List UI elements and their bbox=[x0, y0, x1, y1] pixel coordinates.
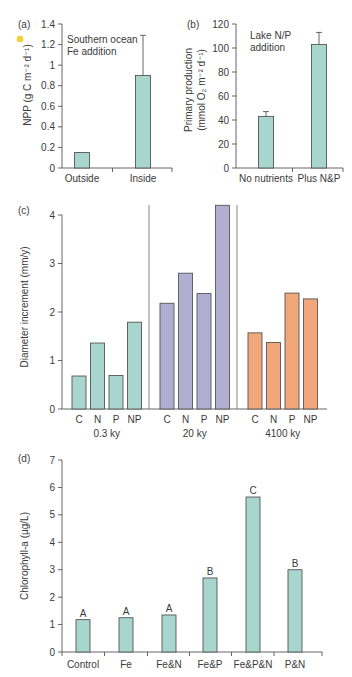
bar bbox=[246, 497, 260, 652]
significance-label: A bbox=[123, 606, 130, 617]
y-tick-label: 0.8 bbox=[41, 80, 55, 91]
y-tick-label: 0.2 bbox=[41, 142, 55, 153]
y-tick-label: 40 bbox=[218, 115, 230, 126]
panel-c-label: (c) bbox=[18, 205, 30, 216]
significance-label: B bbox=[207, 566, 214, 577]
x-tick-label: No nutrients bbox=[239, 173, 293, 184]
bar bbox=[312, 44, 327, 168]
y-tick-label: 2 bbox=[49, 592, 55, 603]
x-tick-label: Fe&P&N bbox=[234, 659, 273, 670]
y-tick-label: 1 bbox=[49, 619, 55, 630]
y-tick-label: 100 bbox=[212, 43, 229, 54]
x-tick-label: NP bbox=[216, 414, 230, 425]
panel-a-label: (a) bbox=[18, 19, 30, 30]
y-tick-label: 0 bbox=[49, 647, 55, 658]
panel-b: (b) Lake N/P addition Primary production… bbox=[183, 19, 291, 132]
y-tick-label: 1.2 bbox=[41, 39, 55, 50]
y-tick-label: 60 bbox=[218, 91, 230, 102]
x-tick-label: Outside bbox=[65, 173, 100, 184]
significance-label: A bbox=[80, 608, 87, 619]
figure: (a) Southern ocean Fe addition NPP (g C … bbox=[0, 0, 352, 677]
bar bbox=[160, 303, 174, 409]
y-tick-label: 6 bbox=[49, 482, 55, 493]
panel-a: (a) Southern ocean Fe addition NPP (g C … bbox=[18, 19, 138, 126]
panel-b-label: (b) bbox=[187, 19, 199, 30]
panel-c-ylabel: Diameter increment (mm/y) bbox=[19, 246, 30, 367]
group-label: 4100 ky bbox=[265, 428, 300, 439]
x-tick-label: Fe&P bbox=[197, 659, 222, 670]
bar bbox=[285, 293, 299, 409]
y-tick-label: 0 bbox=[223, 163, 229, 174]
x-tick-label: C bbox=[163, 414, 170, 425]
panel-b-annotation-line2: addition bbox=[250, 42, 285, 53]
x-tick-label: P bbox=[113, 414, 120, 425]
bar bbox=[248, 333, 262, 409]
x-tick-label: N bbox=[182, 414, 189, 425]
panel-b-ylabel-line2: (mmol O₂ m⁻² d⁻¹) bbox=[196, 49, 207, 131]
y-tick-label: 3 bbox=[49, 258, 55, 269]
bar bbox=[72, 376, 86, 409]
x-tick-label: P&N bbox=[285, 659, 306, 670]
x-tick-label: NP bbox=[128, 414, 142, 425]
panel-a-ylabel: NPP (g C m⁻² d⁻¹) bbox=[22, 44, 33, 126]
significance-label: C bbox=[249, 485, 256, 496]
panel-b-annotation-line1: Lake N/P bbox=[250, 30, 291, 41]
bar bbox=[203, 578, 217, 652]
panel-d-label: (d) bbox=[18, 453, 30, 464]
x-tick-label: NP bbox=[304, 414, 318, 425]
y-tick-label: 4 bbox=[49, 537, 55, 548]
panel-c: (c) Diameter increment (mm/y) bbox=[18, 205, 30, 368]
highlight-dot bbox=[17, 36, 24, 43]
panel-d-ylabel: Chlorophyll-a (µg/L) bbox=[19, 512, 30, 600]
group-label: 0.3 ky bbox=[93, 428, 120, 439]
y-tick-label: 1.4 bbox=[41, 19, 55, 30]
x-tick-label: P bbox=[289, 414, 296, 425]
y-tick-label: 20 bbox=[218, 139, 230, 150]
x-tick-label: Control bbox=[67, 659, 99, 670]
bar bbox=[136, 75, 151, 168]
x-tick-label: Fe bbox=[120, 659, 132, 670]
y-tick-label: 4 bbox=[49, 210, 55, 221]
y-tick-label: 1 bbox=[49, 355, 55, 366]
y-tick-label: 2 bbox=[49, 307, 55, 318]
group-label: 20 ky bbox=[183, 428, 207, 439]
bar bbox=[119, 618, 133, 652]
x-tick-label: Inside bbox=[130, 173, 157, 184]
bar bbox=[216, 205, 230, 409]
panel-b-ylabel-line1: Primary production bbox=[183, 48, 194, 132]
bar bbox=[91, 343, 105, 409]
bar bbox=[75, 153, 90, 168]
y-tick-label: 0.6 bbox=[41, 101, 55, 112]
bar bbox=[288, 570, 302, 652]
panel-a-annotation-line2: Fe addition bbox=[67, 46, 116, 57]
x-tick-label: C bbox=[251, 414, 258, 425]
y-tick-label: 120 bbox=[212, 19, 229, 30]
x-tick-label: C bbox=[75, 414, 82, 425]
y-tick-label: 0 bbox=[49, 404, 55, 415]
bar bbox=[179, 273, 193, 409]
significance-label: B bbox=[292, 558, 299, 569]
bar bbox=[304, 299, 318, 409]
bar bbox=[109, 376, 123, 409]
y-tick-label: 80 bbox=[218, 67, 230, 78]
x-tick-label: P bbox=[201, 414, 208, 425]
y-tick-label: 0.4 bbox=[41, 121, 55, 132]
y-tick-label: 0 bbox=[49, 163, 55, 174]
bar bbox=[128, 322, 142, 409]
panel-a-annotation-line1: Southern ocean bbox=[67, 34, 138, 45]
x-tick-label: Fe&N bbox=[156, 659, 182, 670]
bar bbox=[267, 343, 281, 409]
x-tick-label: N bbox=[270, 414, 277, 425]
bar bbox=[162, 615, 176, 652]
bar bbox=[197, 294, 211, 409]
y-tick-label: 3 bbox=[49, 564, 55, 575]
panel-d: (d) Chlorophyll-a (µg/L) bbox=[18, 453, 30, 600]
y-tick-label: 1 bbox=[49, 60, 55, 71]
bar bbox=[76, 620, 90, 652]
significance-label: A bbox=[166, 603, 173, 614]
x-tick-label: Plus N&P bbox=[298, 173, 341, 184]
y-tick-label: 7 bbox=[49, 455, 55, 466]
bar bbox=[259, 116, 274, 168]
y-tick-label: 5 bbox=[49, 509, 55, 520]
x-tick-label: N bbox=[94, 414, 101, 425]
